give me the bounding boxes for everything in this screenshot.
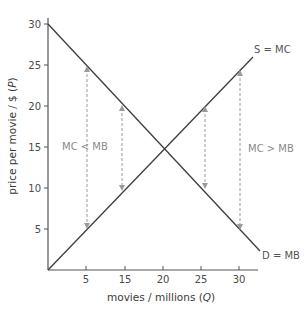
y-tick-label: 20 — [28, 101, 41, 112]
x-axis-title: movies / millions (Q) — [107, 291, 215, 303]
demand-curve — [48, 24, 260, 251]
y-ticks: 5 10 15 20 25 30 — [28, 19, 48, 235]
y-tick-label: 25 — [28, 60, 41, 71]
mc-less-mb-label: MC < MB — [62, 141, 108, 152]
y-tick-label: 30 — [28, 19, 41, 30]
mc-greater-mb-label: MC > MB — [248, 143, 294, 154]
x-tick-label: 20 — [157, 274, 170, 285]
y-tick-label: 15 — [28, 142, 41, 153]
x-tick-label: 30 — [233, 274, 246, 285]
demand-label: D = MB — [262, 250, 300, 261]
supply-curve — [48, 57, 253, 270]
y-tick-label: 10 — [28, 183, 41, 194]
chart-canvas: 5 10 15 20 25 30 5 15 20 25 30 MC < MB M… — [0, 0, 308, 320]
x-tick-label: 5 — [83, 274, 89, 285]
y-tick-label: 5 — [35, 224, 41, 235]
x-ticks: 5 15 20 25 30 — [83, 266, 246, 285]
x-tick-label: 15 — [119, 274, 132, 285]
x-tick-label: 25 — [195, 274, 208, 285]
supply-label: S = MC — [254, 44, 291, 55]
y-axis-title: price per movie / $ (P) — [6, 77, 18, 194]
